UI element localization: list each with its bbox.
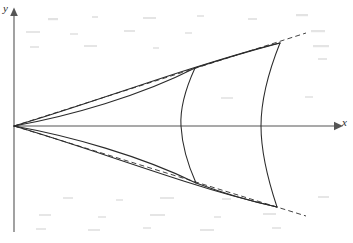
axes-group	[10, 8, 343, 233]
y-axis-label: y	[3, 3, 8, 14]
curve-family-plot	[0, 0, 353, 243]
upper-outer-curve	[14, 43, 280, 126]
upper-curves-group	[14, 43, 280, 126]
outer-cross-arc	[261, 43, 280, 207]
y-axis-arrowhead	[10, 8, 18, 17]
x-axis-label: x	[342, 117, 347, 128]
asymptote-group	[14, 33, 306, 216]
figure-canvas: y x	[0, 0, 353, 243]
scan-speckle-group	[26, 14, 329, 231]
